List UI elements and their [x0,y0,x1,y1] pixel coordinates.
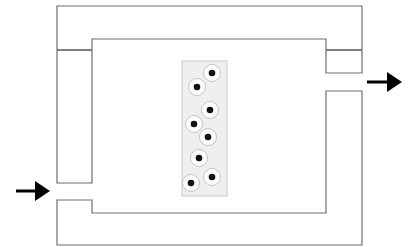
cell [204,169,221,186]
cell-nucleus [188,180,195,187]
arrow-head-icon [35,181,50,201]
arrow-head-icon [387,72,402,92]
right-upper-wall [326,50,362,73]
cell [183,175,200,192]
inlet-arrow [16,181,50,201]
flow-chamber-diagram [0,0,411,247]
cell-nucleus [194,84,201,91]
cell-nucleus [205,134,212,141]
top-channel-inner-wall [92,39,326,50]
cell-nucleus [191,121,198,128]
cell [204,65,221,82]
cell-nucleus [209,174,216,181]
outlet-arrow [367,72,402,92]
cell-nucleus [196,155,203,162]
cell [189,79,206,96]
diagram-canvas [0,0,411,247]
cell [191,150,208,167]
cell-nucleus [209,70,216,77]
top-channel-outer-wall [57,6,362,50]
left-upper-wall [57,50,92,183]
cell [202,102,219,119]
cell [200,129,217,146]
cell-nucleus [207,107,214,114]
cell [186,116,203,133]
